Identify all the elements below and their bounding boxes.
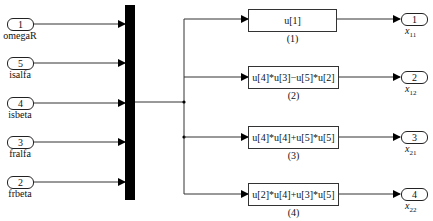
fcn-block-3-label: (3) bbox=[248, 150, 339, 161]
mux-block[interactable] bbox=[125, 5, 135, 200]
fcn-block-1-label: (1) bbox=[248, 33, 337, 44]
inport-1-label: omegaR bbox=[0, 30, 40, 41]
outport-4-label: x22 bbox=[405, 200, 416, 214]
inport-3-label: fralfa bbox=[0, 148, 40, 159]
fcn-block-2-label: (2) bbox=[248, 90, 339, 101]
fcn-block-3[interactable]: u[4]*u[4]+u[5]*u[5] bbox=[248, 126, 339, 149]
outport-2-label: x12 bbox=[405, 83, 416, 97]
inport-5-label: isalfa bbox=[0, 69, 40, 80]
signal-lines bbox=[0, 0, 433, 221]
fcn-block-4[interactable]: u[2]*u[4]+u[3]*u[5] bbox=[248, 183, 339, 206]
inport-2-label: frbeta bbox=[0, 188, 40, 199]
outport-1-label: x11 bbox=[405, 25, 416, 39]
fcn-block-4-label: (4) bbox=[248, 207, 339, 218]
inport-4-label: isbeta bbox=[0, 109, 40, 120]
fcn-block-2[interactable]: u[4]*u[3]−u[5]*u[2] bbox=[248, 66, 339, 89]
fcn-block-1[interactable]: u[1] bbox=[248, 9, 337, 32]
outport-3-label: x21 bbox=[405, 143, 416, 157]
